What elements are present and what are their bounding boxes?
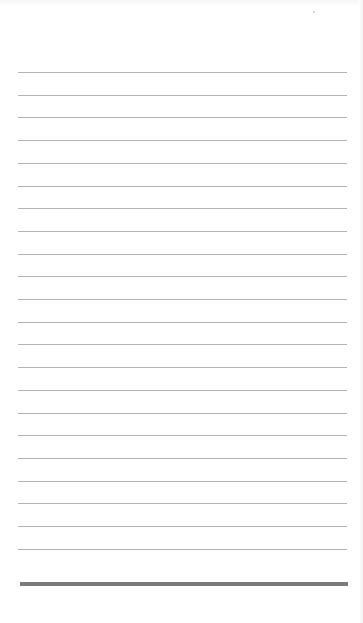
ruled-line — [18, 72, 347, 73]
ruled-lines — [0, 0, 363, 623]
ruled-line — [18, 276, 347, 277]
ruled-line — [18, 344, 347, 345]
ruled-line — [18, 299, 347, 300]
ruled-line — [18, 186, 347, 187]
ruled-line — [18, 254, 347, 255]
ruled-line — [18, 367, 347, 368]
ruled-line — [18, 458, 347, 459]
ruled-line — [18, 526, 347, 527]
ruled-line — [18, 95, 347, 96]
ruled-line — [18, 322, 347, 323]
ruled-line — [18, 163, 347, 164]
ruled-line — [18, 481, 347, 482]
ruled-line — [18, 117, 347, 118]
ruled-line — [18, 390, 347, 391]
ruled-line — [18, 435, 347, 436]
bottom-margin-bar — [20, 582, 348, 586]
ruled-line — [18, 549, 347, 550]
notepad-page — [0, 0, 363, 623]
ruled-line — [18, 208, 347, 209]
ruled-line — [18, 140, 347, 141]
ruled-line — [18, 413, 347, 414]
ruled-line — [18, 231, 347, 232]
ruled-line — [18, 503, 347, 504]
